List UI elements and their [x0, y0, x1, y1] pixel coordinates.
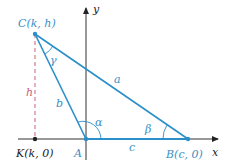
label-alpha: α	[95, 116, 103, 129]
side-b	[35, 34, 86, 139]
angle-gamma-arc	[45, 46, 53, 54]
angle-beta-arc	[163, 125, 167, 139]
label-x-axis: x	[212, 146, 219, 159]
label-side-c: c	[129, 141, 135, 154]
label-side-a: a	[114, 73, 121, 86]
diagram-canvas: C(k, h) A B(c, 0) K(k, 0) a b c h α β γ …	[0, 0, 229, 165]
side-a	[35, 34, 188, 139]
point-a	[84, 137, 88, 141]
label-k: K(k, 0)	[15, 147, 53, 160]
point-b	[186, 137, 190, 141]
label-b: B(c, 0)	[165, 148, 203, 161]
triangle-diagram: C(k, h) A B(c, 0) K(k, 0) a b c h α β γ …	[0, 0, 229, 165]
label-a-point: A	[73, 147, 82, 160]
point-k	[33, 137, 37, 141]
label-y-axis: y	[92, 3, 100, 16]
label-c: C(k, h)	[18, 17, 56, 30]
point-c	[33, 32, 37, 36]
label-height: h	[26, 86, 33, 99]
label-side-b: b	[56, 97, 63, 110]
label-beta: β	[144, 123, 151, 136]
label-gamma: γ	[50, 54, 57, 67]
